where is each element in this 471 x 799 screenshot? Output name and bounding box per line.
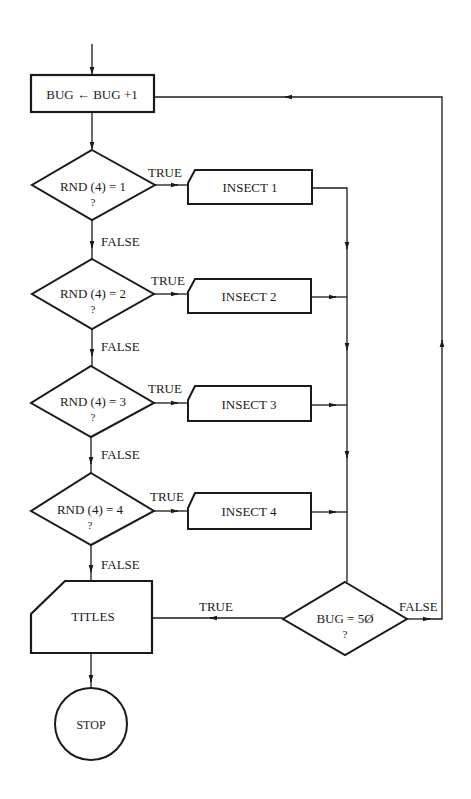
check-true-label: TRUE bbox=[199, 599, 233, 614]
false2-label: FALSE bbox=[101, 339, 140, 354]
decision3-text: RND (4) = 3 bbox=[60, 394, 126, 409]
check-bug-text: BUG = 5Ø bbox=[316, 611, 373, 626]
false3-label: FALSE bbox=[101, 447, 140, 462]
check-false-label: FALSE bbox=[399, 599, 438, 614]
true3-label: TRUE bbox=[148, 381, 182, 396]
insect1-exit bbox=[312, 188, 347, 249]
insect1-label: INSECT 1 bbox=[222, 180, 277, 195]
decision4-text: RND (4) = 4 bbox=[57, 502, 124, 517]
titles-label: TITLES bbox=[71, 609, 114, 624]
false4-label: FALSE bbox=[101, 557, 140, 572]
true4-label: TRUE bbox=[150, 489, 184, 504]
increment-label: BUG ← BUG +1 bbox=[46, 87, 137, 102]
decision2-question: ? bbox=[91, 303, 96, 315]
feedback-line bbox=[428, 340, 442, 619]
true2-label: TRUE bbox=[151, 273, 185, 288]
flowchart: BUG ← BUG +1 RND (4) = 1 ? INSECT 1 RND … bbox=[0, 0, 471, 799]
insect3-label: INSECT 3 bbox=[221, 397, 276, 412]
false1-label: FALSE bbox=[101, 234, 140, 249]
decision1-text: RND (4) = 1 bbox=[60, 179, 126, 194]
decision4-question: ? bbox=[88, 519, 93, 531]
decision2-text: RND (4) = 2 bbox=[60, 286, 126, 301]
insect4-label: INSECT 4 bbox=[221, 504, 277, 519]
stop-label: STOP bbox=[76, 718, 105, 732]
decision1-question: ? bbox=[91, 196, 96, 208]
insect2-label: INSECT 2 bbox=[221, 289, 276, 304]
true1-label: TRUE bbox=[148, 165, 182, 180]
check-bug-question: ? bbox=[343, 628, 348, 640]
decision3-question: ? bbox=[91, 411, 96, 423]
